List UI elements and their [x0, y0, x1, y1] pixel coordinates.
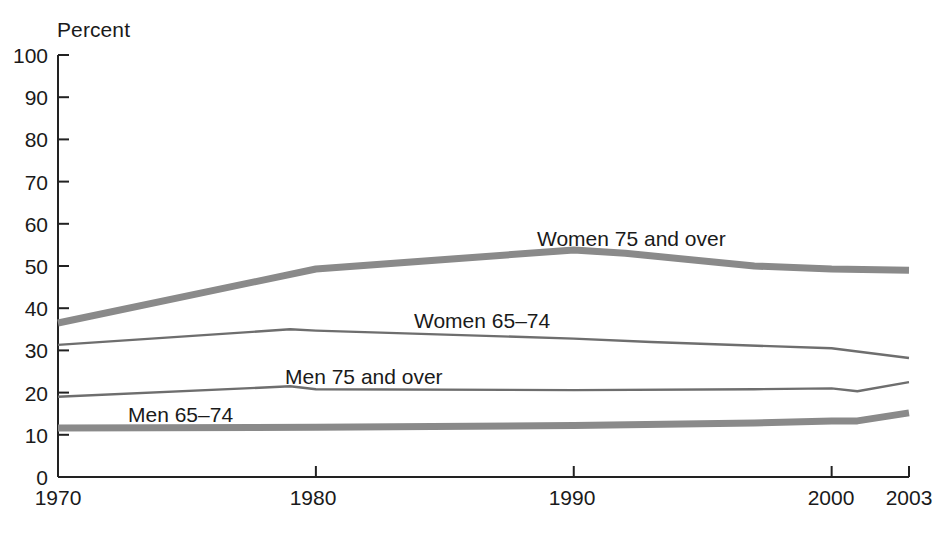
series-line-men-75-and-over — [58, 382, 909, 397]
series-line-women-75-and-over — [58, 250, 909, 323]
series-line-men-65-74 — [58, 413, 909, 428]
x-axis-ticks — [58, 466, 909, 477]
series-lines — [58, 250, 909, 428]
y-axis-ticks — [58, 55, 69, 477]
plot-area — [0, 0, 952, 537]
chart-container: Percent 100 90 80 70 60 50 40 30 20 10 0… — [0, 0, 952, 537]
series-line-women-65-74 — [58, 329, 909, 358]
